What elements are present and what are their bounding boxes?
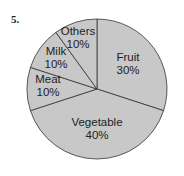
- slice-label-meat: Meat: [35, 73, 61, 85]
- slice-pct-others: 10%: [66, 38, 89, 50]
- pie-chart: Fruit30%Vegetable40%Meat10%Milk10%Others…: [0, 0, 184, 176]
- slice-pct-vegetable: 40%: [85, 129, 108, 141]
- slice-pct-milk: 10%: [44, 58, 67, 70]
- slice-label-fruit: Fruit: [117, 51, 141, 63]
- slice-label-others: Others: [61, 25, 96, 37]
- slice-label-milk: Milk: [46, 45, 67, 57]
- slice-pct-fruit: 30%: [116, 64, 139, 76]
- slice-label-vegetable: Vegetable: [71, 116, 122, 128]
- slice-pct-meat: 10%: [36, 86, 59, 98]
